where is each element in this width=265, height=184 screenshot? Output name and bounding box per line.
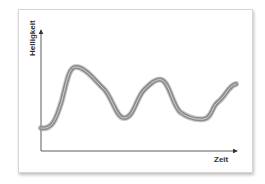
y-axis-label: Helligkeit xyxy=(28,20,37,56)
x-axis-label: Zeit xyxy=(214,155,228,164)
